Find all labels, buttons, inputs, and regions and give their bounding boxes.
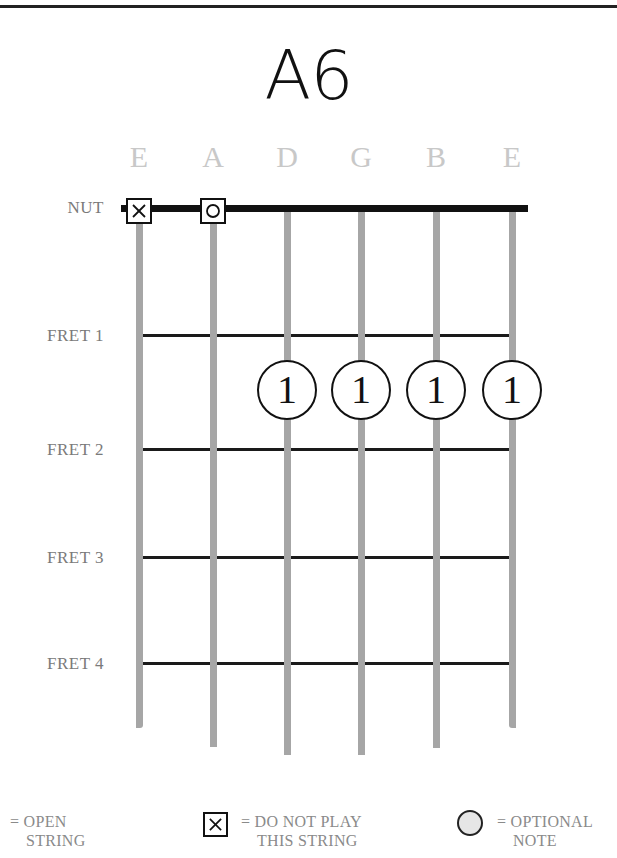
nut <box>121 205 528 212</box>
string-name-a: A <box>193 140 233 174</box>
legend-optional-line2: NOTE <box>497 831 593 850</box>
legend-open-line1: = OPEN <box>10 812 86 831</box>
string-d <box>284 212 291 755</box>
legend-mute-line1: = DO NOT PLAY <box>241 812 362 831</box>
fret-label-4: FRET 4 <box>0 654 104 674</box>
fret-line-4 <box>143 662 509 665</box>
legend-mute-box <box>203 812 228 837</box>
legend-mute-line2: THIS STRING <box>241 831 362 850</box>
fret-label-1: FRET 1 <box>0 326 104 346</box>
x-icon <box>208 817 223 832</box>
nut-label: NUT <box>0 198 104 218</box>
fret-label-2: FRET 2 <box>0 440 104 460</box>
chord-title: A6 <box>0 36 617 115</box>
top-rule <box>0 5 617 8</box>
x-icon <box>131 203 147 219</box>
open-marker-a <box>200 198 226 224</box>
string-g <box>358 212 365 755</box>
legend-open-line2: STRING <box>10 831 86 850</box>
fret-label-3: FRET 3 <box>0 548 104 568</box>
legend-open: = OPEN STRING <box>10 812 86 850</box>
finger-dot-high-e: 1 <box>482 360 542 420</box>
fret-line-1 <box>143 334 509 337</box>
string-b <box>433 212 440 748</box>
legend-optional: = OPTIONAL NOTE <box>497 812 593 850</box>
fret-line-2 <box>143 448 509 451</box>
finger-dot-g: 1 <box>331 360 391 420</box>
string-a <box>210 212 217 747</box>
circle-icon <box>205 203 221 219</box>
legend-mute: = DO NOT PLAY THIS STRING <box>241 812 362 850</box>
finger-dot-d: 1 <box>257 360 317 420</box>
legend-optional-line1: = OPTIONAL <box>497 812 593 831</box>
string-name-d: D <box>267 140 307 174</box>
mute-marker-low-e <box>126 198 152 224</box>
string-low-e <box>136 212 143 728</box>
optional-note-icon <box>457 810 483 836</box>
string-high-e <box>509 212 516 728</box>
fret-line-3 <box>143 556 509 559</box>
finger-dot-b: 1 <box>406 360 466 420</box>
string-name-low-e: E <box>119 140 159 174</box>
string-name-g: G <box>341 140 381 174</box>
string-name-b: B <box>416 140 456 174</box>
string-name-high-e: E <box>492 140 532 174</box>
